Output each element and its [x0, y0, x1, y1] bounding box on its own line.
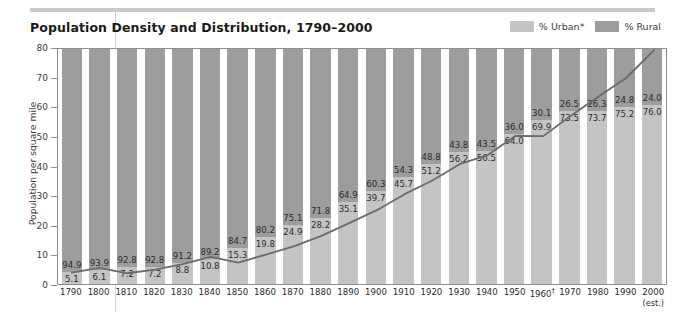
x-axis-tick-label: 1960† — [528, 287, 556, 322]
x-axis-tick-label: 1990 — [612, 287, 640, 322]
legend-swatch-urban — [509, 20, 535, 33]
x-axis-tick-label: 1970 — [556, 287, 584, 322]
legend-label-urban: % Urban* — [539, 21, 585, 32]
legend-swatch-rural — [594, 20, 620, 33]
x-axis-tick-label: 1860 — [251, 287, 279, 322]
y-axis: Population per square mile 0102030405060… — [0, 48, 57, 285]
y-axis-tick-label: 60 — [37, 102, 48, 112]
x-axis-tick-label: 1800 — [85, 287, 113, 322]
y-axis-tick-label: 40 — [37, 162, 48, 172]
legend-label-rural: % Rural — [624, 21, 661, 32]
x-axis-tick-label: 1980 — [584, 287, 612, 322]
y-axis-tick-label: 80 — [37, 43, 48, 53]
y-axis-tick-mark — [51, 285, 57, 286]
x-axis-tick-footnote-marker: † — [552, 287, 556, 295]
x-axis-tick-label: 2000(est.) — [639, 287, 667, 322]
x-axis-tick-label: 1830 — [168, 287, 196, 322]
x-axis: 1790180018101820183018401850186018701880… — [57, 287, 667, 322]
x-axis-tick-label: 1790 — [57, 287, 85, 322]
y-axis-tick-label: 30 — [37, 191, 48, 201]
y-axis-tick-label: 20 — [37, 221, 48, 231]
y-axis-tick-label: 10 — [37, 250, 48, 260]
plot-area: 94.95.193.96.192.87.292.87.291.28.889.21… — [57, 48, 667, 285]
x-axis-tick-label: 1920 — [418, 287, 446, 322]
x-axis-tick-label: 1950 — [501, 287, 529, 322]
x-axis-tick-estimate-note: (est.) — [639, 298, 667, 308]
x-axis-tick-label: 1930 — [445, 287, 473, 322]
y-axis-tick-label: 0 — [42, 280, 48, 290]
x-axis-tick-label: 1850 — [223, 287, 251, 322]
x-axis-tick-label: 1940 — [473, 287, 501, 322]
legend-item-rural: % Rural — [594, 20, 661, 33]
legend-item-urban: % Urban* — [509, 20, 585, 33]
y-axis-tick-label: 70 — [37, 73, 48, 83]
x-axis-tick-label: 1840 — [196, 287, 224, 322]
x-axis-tick-label: 1900 — [362, 287, 390, 322]
x-axis-tick-label: 1820 — [140, 287, 168, 322]
y-axis-tick-label: 50 — [37, 132, 48, 142]
x-axis-tick-label: 1870 — [279, 287, 307, 322]
page-title: Population Density and Distribution, 179… — [30, 20, 373, 35]
x-axis-tick-label: 1810 — [112, 287, 140, 322]
top-divider-rule — [30, 8, 655, 12]
density-line-path — [72, 50, 654, 273]
x-axis-tick-label: 1910 — [390, 287, 418, 322]
density-line-overlay — [58, 49, 667, 285]
chart-legend: % Urban* % Rural — [509, 20, 661, 33]
x-axis-tick-label: 1890 — [334, 287, 362, 322]
x-axis-tick-label: 1880 — [307, 287, 335, 322]
